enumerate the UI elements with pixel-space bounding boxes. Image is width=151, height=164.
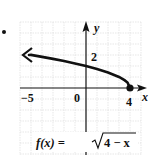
function-label-radicand: 4 − x: [104, 136, 131, 150]
function-graph: y x 2 −5 0 4 f(x) = 4 − x: [0, 0, 151, 164]
x-tick-label-0: 0: [74, 91, 80, 105]
y-axis-label: y: [92, 21, 100, 35]
endpoint-dot: [126, 84, 133, 91]
function-label-lhs: f(x) =: [36, 136, 65, 150]
function-curve: [29, 55, 130, 88]
x-tick-label-neg5: −5: [21, 91, 34, 105]
x-axis-label: x: [141, 90, 148, 104]
y-tick-label-2: 2: [91, 50, 97, 64]
x-tick-label-4: 4: [126, 95, 132, 109]
